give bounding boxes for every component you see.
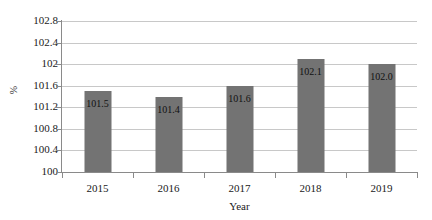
bar-value-label: 101.6 (228, 93, 251, 104)
y-axis-tick-label: 101.2 (14, 101, 58, 112)
x-axis-tick-mark (62, 172, 63, 178)
bar-value-label: 101.4 (157, 104, 180, 115)
bar-slot: 101.4 (133, 21, 204, 172)
x-axis-tick-mark (275, 172, 276, 178)
bar-value-label: 101.5 (86, 98, 109, 109)
bar-slot: 101.6 (204, 21, 275, 172)
y-axis-tick-label: 100.4 (14, 144, 58, 155)
bar-slot: 101.5 (62, 21, 133, 172)
y-axis-tick-label: 101.6 (14, 80, 58, 91)
x-axis-title: Year (62, 200, 417, 212)
y-axis-tick-label: 102.4 (14, 37, 58, 48)
bar-chart: % 102.8102.4102101.6101.2100.8100.4100 1… (0, 0, 432, 220)
y-axis-tick-mark (56, 43, 62, 44)
y-axis-tick-mark (56, 150, 62, 151)
x-axis-tick-mark (204, 172, 205, 178)
y-axis-tick-mark (56, 21, 62, 22)
x-axis-tick-label: 2016 (133, 182, 204, 194)
y-axis-tick-labels: 102.8102.4102101.6101.2100.8100.4100 (10, 0, 58, 220)
bar-value-label: 102.0 (370, 71, 393, 82)
x-axis-tick-label: 2019 (346, 182, 417, 194)
x-axis-tick-label: 2017 (204, 182, 275, 194)
x-axis-tick-label: 2015 (62, 182, 133, 194)
bar-value-label: 102.1 (299, 66, 322, 77)
y-axis-tick-mark (56, 172, 62, 173)
y-axis-tick-mark (56, 107, 62, 108)
y-axis-tick-mark (56, 64, 62, 65)
y-axis-tick-mark (56, 129, 62, 130)
bars-layer: 101.5101.4101.6102.1102.0 (62, 21, 417, 172)
x-axis-tick-mark (133, 172, 134, 178)
y-axis-tick-label: 102 (14, 58, 58, 69)
x-axis-tick-mark (346, 172, 347, 178)
y-axis-tick-label: 100 (14, 166, 58, 177)
bar-slot: 102.0 (346, 21, 417, 172)
y-axis-tick-label: 100.8 (14, 123, 58, 134)
x-axis-line (62, 172, 418, 173)
x-axis-tick-label: 2018 (275, 182, 346, 194)
y-axis-tick-mark (56, 86, 62, 87)
y-axis-tick-label: 102.8 (14, 15, 58, 26)
x-axis-tick-mark (417, 172, 418, 178)
bar-slot: 102.1 (275, 21, 346, 172)
